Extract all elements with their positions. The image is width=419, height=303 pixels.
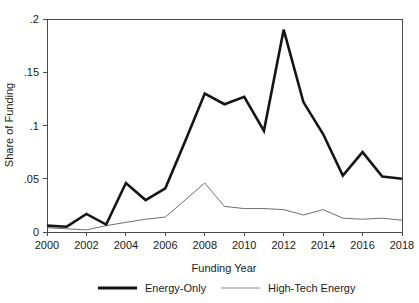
y-axis-ticks: 0.05.1.15.2	[24, 13, 47, 238]
x-tick-label: 2016	[350, 239, 374, 251]
legend-label-high-tech-energy: High-Tech Energy	[268, 282, 356, 294]
chart-figure: 0.05.1.15.2 2000200220042006200820102012…	[0, 0, 419, 303]
y-axis-title: Share of Funding	[3, 83, 15, 167]
x-tick-label: 2002	[74, 239, 98, 251]
y-tick-label: .1	[30, 120, 39, 132]
x-tick-label: 2004	[114, 239, 138, 251]
x-tick-label: 2010	[232, 239, 256, 251]
x-tick-label: 2006	[153, 239, 177, 251]
x-axis-title: Funding Year	[192, 262, 257, 274]
x-tick-label: 2018	[390, 239, 414, 251]
x-tick-label: 2008	[193, 239, 217, 251]
series-line-energy-only	[47, 30, 402, 227]
plot-frame	[47, 19, 402, 232]
chart-legend: Energy-Only High-Tech Energy	[98, 282, 356, 294]
x-axis-ticks: 2000200220042006200820102012201420162018	[35, 232, 414, 251]
x-tick-label: 2012	[271, 239, 295, 251]
series-group	[47, 30, 402, 230]
y-tick-label: .2	[30, 13, 39, 25]
line-chart: 0.05.1.15.2 2000200220042006200820102012…	[0, 0, 419, 303]
x-tick-label: 2000	[35, 239, 59, 251]
y-tick-label: .15	[24, 66, 39, 78]
x-tick-label: 2014	[311, 239, 335, 251]
y-tick-label: 0	[33, 226, 39, 238]
y-tick-label: .05	[24, 173, 39, 185]
series-line-high-tech-energy	[47, 183, 402, 230]
legend-label-energy-only: Energy-Only	[145, 282, 207, 294]
